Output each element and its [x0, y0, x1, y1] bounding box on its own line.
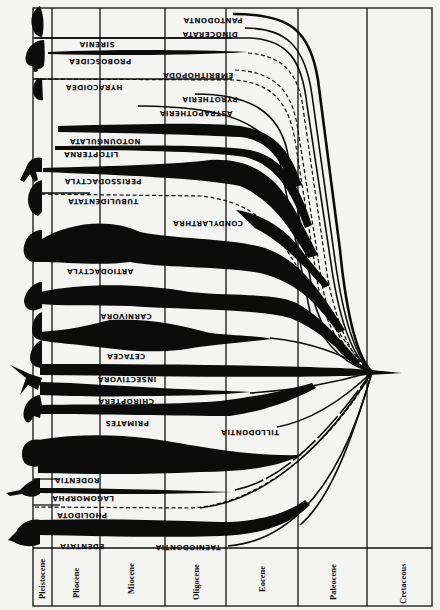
order-label-litopterna: LITOPTERNA — [64, 150, 118, 159]
spindle-insectivora — [40, 364, 402, 377]
period-label-miocene: Miocene — [126, 563, 136, 594]
order-label-cetacea: CETACEA — [107, 352, 146, 361]
order-label-chiroptera: CHIROPTERA — [98, 397, 154, 406]
order-label-rodentia: RODENTIA — [55, 476, 100, 485]
lineage-spindles — [38, 50, 402, 537]
order-label-primates: PRIMATES — [105, 419, 149, 428]
gorilla-silhouette — [22, 440, 42, 467]
order-label-pantodonta: PANTODONTA — [183, 16, 242, 25]
spindle-rodentia — [38, 435, 302, 474]
order-label-proboscidea: PROBOSCIDEA — [69, 57, 132, 66]
spindle-sirenia — [48, 50, 248, 55]
order-label-artiodactyla: ARTIODACTYLA — [67, 267, 133, 276]
mammal-phylogeny-diagram: Pleistocene Pliocene Miocene Oligocene E… — [0, 0, 440, 610]
animal-silhouettes — [6, 6, 45, 546]
order-label-taeniodontia: TAENIODONTIA — [155, 543, 221, 552]
order-label-notoungulata: NOTOUNGULATA — [69, 137, 140, 146]
horse-silhouette — [20, 157, 42, 182]
order-label-condylarthra: CONDYLARTHRA — [173, 219, 243, 228]
aardvark-silhouette — [28, 180, 42, 216]
period-label-eocene: Eocene — [257, 566, 267, 592]
order-label-dinocerata: DINOCERATA — [182, 30, 237, 39]
period-labels: Pleistocene Pliocene Miocene Oligocene E… — [37, 559, 408, 604]
order-label-embrithopoda: EMBRITHOPODA — [163, 71, 234, 80]
order-label-lagomorpha: LAGOMORPHA — [52, 494, 114, 503]
bear-silhouette — [24, 282, 42, 311]
order-label-astrapotheria: ASTRAPOTHERIA — [160, 109, 233, 118]
armadillo-silhouette — [8, 520, 40, 547]
period-label-oligocene: Oligocene — [191, 564, 201, 600]
order-label-pholidota: PHOLIDOTA — [57, 511, 107, 520]
elephant-silhouette — [25, 40, 44, 72]
bat-silhouette — [10, 365, 42, 395]
order-label-sirenia: SIRENIA — [79, 40, 114, 49]
rabbit-silhouette — [6, 478, 40, 497]
order-label-tubulidentata: TUBULIDENTATA — [68, 197, 139, 206]
hyrax-silhouette — [33, 78, 43, 100]
order-label-carnivora: CARNIVORA — [100, 312, 151, 321]
order-label-insectivora: INSECTIVORA — [98, 375, 157, 384]
period-label-cretaceous: Cretaceous — [398, 563, 408, 604]
spindle-cetacea — [40, 320, 272, 352]
period-label-pliocene: Pliocene — [71, 568, 81, 598]
order-label-hyracoidea: HYRACOIDEA — [66, 83, 123, 92]
spindle-lagomorpha — [38, 488, 232, 494]
order-label-perissodactyla: PERISSODACTYLA — [64, 177, 141, 186]
period-label-pleistocene: Pleistocene — [37, 559, 47, 599]
shrew-silhouette — [30, 340, 42, 368]
bison-silhouette — [24, 230, 42, 262]
period-label-paleocene: Paleocene — [328, 564, 338, 600]
order-label-pyrotheria: PYROTHERIA — [182, 95, 238, 104]
order-label-edentata: EDENTATA — [60, 542, 104, 551]
order-label-tillodontia: TILLODONTIA — [221, 428, 279, 437]
